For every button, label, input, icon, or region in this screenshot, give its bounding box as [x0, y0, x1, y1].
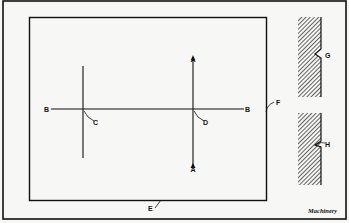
- label-d: D: [203, 119, 208, 126]
- label-c: C: [93, 119, 98, 126]
- label-g: G: [325, 52, 331, 59]
- leader-f: [266, 102, 274, 112]
- label-e: E: [148, 205, 153, 212]
- hatched-block-h: [298, 113, 321, 185]
- diagram-canvas: A A B B C D E F G H Machinery: [0, 0, 349, 223]
- label-h: H: [325, 141, 330, 148]
- credit-machinery: Machinery: [307, 207, 337, 214]
- outer-frame: [3, 1, 346, 219]
- label-f: F: [276, 99, 281, 106]
- label-b-left: B: [44, 106, 49, 113]
- label-a-bottom: A: [191, 166, 196, 173]
- label-a-top: A: [191, 56, 196, 63]
- hatched-block-g: [298, 17, 321, 97]
- label-b-right: B: [245, 106, 250, 113]
